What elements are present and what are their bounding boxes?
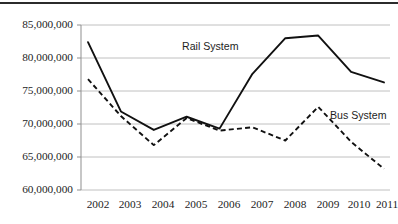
x-axis-tick-labels: 2002 2003 2004 2005 2006 2007 2008 2009 … [87, 198, 398, 210]
x-axis-label-2006: 2006 [218, 198, 241, 210]
y-axis-label-65m: 65,000,000 [22, 150, 73, 162]
x-axis-label-2004: 2004 [152, 198, 175, 210]
x-axis-label-2007: 2007 [251, 198, 274, 210]
axis-group [77, 25, 81, 190]
x-axis-label-2010: 2010 [348, 198, 371, 210]
series-annotations: Rail System Bus System [182, 40, 387, 121]
y-axis-tick-labels: 85,000,000 80,000,000 75,000,000 70,000,… [22, 18, 73, 195]
y-axis-label-60m: 60,000,000 [22, 183, 73, 195]
x-axis-label-2002: 2002 [87, 198, 110, 210]
bus-system-label: Bus System [330, 109, 387, 121]
rail-system-label: Rail System [182, 40, 239, 52]
x-axis-label-2005: 2005 [185, 198, 208, 210]
y-axis-label-75m: 75,000,000 [22, 84, 73, 96]
y-axis-label-70m: 70,000,000 [22, 117, 73, 129]
line-chart-plot: 85,000,000 80,000,000 75,000,000 70,000,… [0, 0, 398, 224]
x-axis-label-2008: 2008 [284, 198, 307, 210]
x-axis-label-2003: 2003 [119, 198, 142, 210]
x-axis-label-2009: 2009 [317, 198, 340, 210]
x-axis-label-2011: 2011 [376, 198, 398, 210]
y-axis-label-85m: 85,000,000 [22, 18, 73, 30]
y-axis-label-80m: 80,000,000 [22, 51, 73, 63]
chart-figure: 85,000,000 80,000,000 75,000,000 70,000,… [0, 0, 398, 224]
